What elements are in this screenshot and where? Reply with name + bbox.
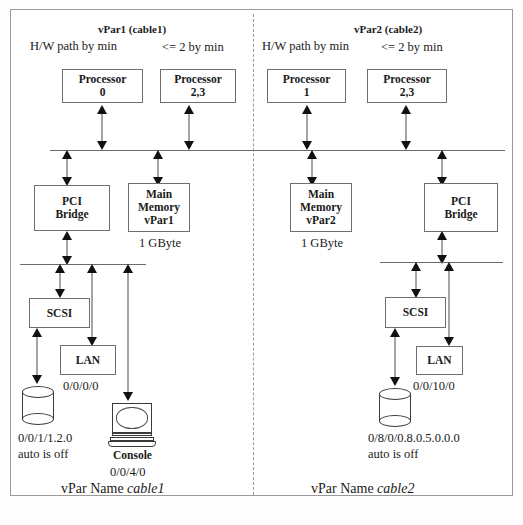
right-lan-label: LAN	[427, 354, 451, 367]
arrow-bus-to-right-pci	[436, 150, 447, 186]
left-processor-23-box[interactable]: Processor 2,3	[160, 69, 236, 103]
right-processor-23-label-line1: Processor	[383, 73, 431, 86]
left-lan-box[interactable]: LAN	[60, 345, 116, 375]
arrow-right-bus-to-scsi	[410, 262, 421, 298]
left-lan-path: 0/0/0/0	[63, 380, 98, 393]
console-keyboard-icon	[108, 441, 156, 447]
arrow-right-pci-to-io-bus	[436, 231, 447, 264]
arrow-bus-to-left-pci	[61, 150, 72, 186]
arrow-left-bus-to-console	[122, 264, 133, 401]
console-stand-icon	[112, 433, 152, 436]
arrow-right-proc23-to-bus	[400, 105, 411, 150]
vpar1-hw-path-label: H/W path by min	[30, 40, 117, 53]
right-io-bus	[380, 262, 503, 263]
console-icon	[110, 403, 158, 449]
vpar-divider	[253, 14, 254, 495]
arrow-bus-to-right-memory	[306, 150, 317, 186]
footer-right-prefix: vPar Name	[311, 481, 377, 496]
right-disk-icon	[379, 388, 411, 427]
left-processor-0-box[interactable]: Processor 0	[62, 69, 143, 103]
left-disk-icon	[22, 386, 54, 425]
console-path: 0/0/4/0	[110, 466, 145, 479]
arrow-left-proc23-to-bus	[183, 105, 194, 150]
right-pci-bridge-label-line2: Bridge	[444, 208, 477, 221]
right-main-memory-box[interactable]: Main Memory vPar2	[290, 183, 352, 232]
vpar2-le2-label: <= 2 by min	[381, 41, 443, 54]
right-pci-bridge-box[interactable]: PCI Bridge	[424, 183, 498, 232]
right-scsi-label: SCSI	[403, 306, 429, 319]
right-processor-23-box[interactable]: Processor 2,3	[367, 69, 447, 103]
right-lan-box[interactable]: LAN	[416, 346, 463, 375]
diagram-canvas: vPar1 (cable1) H/W path by min <= 2 by m…	[0, 0, 523, 525]
arrow-right-scsi-to-disk	[389, 328, 400, 386]
left-pci-bridge-label-line1: PCI	[62, 195, 82, 208]
vpar1-le2-label: <= 2 by min	[162, 41, 224, 54]
left-memory-label-line1: Main	[146, 188, 172, 201]
vpar2-hw-path-label: H/W path by min	[262, 40, 349, 53]
vpar1-title: vPar1 (cable1)	[62, 24, 202, 36]
vpar2-title: vPar2 (cable2)	[318, 24, 458, 36]
left-memory-size: 1 GByte	[120, 237, 200, 250]
left-processor-0-label-line2: 0	[100, 86, 106, 99]
left-processor-23-label-line2: 2,3	[191, 86, 205, 99]
left-processor-23-label-line1: Processor	[174, 73, 222, 86]
left-scsi-box[interactable]: SCSI	[29, 298, 90, 328]
left-lan-label: LAN	[76, 354, 100, 367]
left-scsi-label: SCSI	[47, 307, 73, 320]
right-memory-label-line3: vPar2	[306, 214, 335, 227]
right-memory-label-line1: Main	[308, 188, 334, 201]
footer-right-name: cable2	[377, 481, 414, 496]
arrow-left-bus-to-scsi	[54, 264, 65, 298]
right-processor-23-label-line2: 2,3	[400, 86, 414, 99]
right-memory-size: 1 GByte	[282, 237, 362, 250]
console-screen-icon	[116, 407, 148, 429]
right-processor-1-label-line2: 1	[304, 86, 310, 99]
left-pci-bridge-box[interactable]: PCI Bridge	[34, 185, 110, 231]
left-disk-auto: auto is off	[18, 448, 68, 461]
right-processor-1-box[interactable]: Processor 1	[267, 69, 346, 103]
console-label: Console	[113, 449, 152, 461]
right-pci-bridge-label-line1: PCI	[451, 195, 471, 208]
right-scsi-box[interactable]: SCSI	[385, 297, 446, 328]
left-disk-path: 0/0/1/1.2.0	[18, 432, 72, 445]
arrow-left-pci-to-io-bus	[61, 231, 72, 265]
footer-left-prefix: vPar Name	[61, 481, 127, 496]
right-lan-path: 0/0/10/0	[413, 380, 455, 393]
arrow-left-proc0-to-bus	[96, 105, 107, 150]
right-disk-path: 0/8/0/0.8.0.5.0.0.0	[368, 432, 460, 445]
footer-left-name: cable1	[127, 481, 164, 496]
right-memory-label-line2: Memory	[300, 201, 342, 214]
right-processor-1-label-line1: Processor	[283, 73, 331, 86]
left-memory-label-line2: Memory	[138, 201, 180, 214]
arrow-right-proc1-to-bus	[301, 105, 312, 150]
arrow-left-scsi-to-disk	[31, 328, 42, 384]
left-memory-label-line3: vPar1	[144, 214, 173, 227]
left-main-memory-box[interactable]: Main Memory vPar1	[128, 183, 190, 232]
footer-right: vPar Name cable2	[311, 482, 414, 497]
left-pci-bridge-label-line2: Bridge	[55, 208, 88, 221]
footer-left: vPar Name cable1	[61, 482, 164, 497]
right-disk-auto: auto is off	[368, 448, 418, 461]
left-processor-0-label-line1: Processor	[79, 73, 127, 86]
arrow-bus-to-left-memory	[152, 150, 163, 186]
